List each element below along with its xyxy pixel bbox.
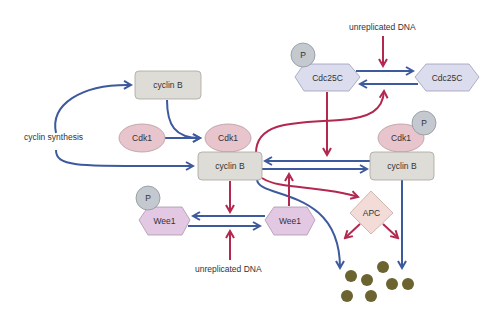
cyclin-b-phospho-label: cyclin B: [370, 152, 434, 180]
cyclin-synthesis-label: cyclin synthesis: [24, 132, 83, 142]
p-wee1-label: P: [136, 186, 160, 210]
cdc25c-phospho-label: Cdc25C: [295, 64, 360, 91]
unreplicated-dna-bottom-label: unreplicated DNA: [195, 264, 262, 274]
cdc25c-label: Cdc25C: [415, 64, 479, 91]
cyclin-b-free-label: cyclin B: [135, 71, 201, 99]
arrow-synthesis-to-complex: [56, 150, 193, 166]
wee1-phospho-label: Wee1: [139, 207, 190, 235]
degraded-cyclin-particles: [341, 261, 414, 302]
cdk1-free-label: Cdk1: [119, 124, 165, 152]
cdk1-bound-label: Cdk1: [205, 124, 251, 152]
apc-label: APC: [350, 199, 393, 227]
wee1-label: Wee1: [265, 207, 315, 235]
p-cdc25c-label: P: [291, 43, 315, 67]
arrow-dna-to-cdc25c-bottom: [256, 91, 384, 153]
arrow-complex-to-apc: [262, 178, 358, 197]
arrow-cyclin-to-cdk1: [167, 100, 200, 138]
cyclin-b-complex-label: cyclin B: [198, 152, 262, 180]
unreplicated-dna-top-label: unreplicated DNA: [349, 22, 416, 32]
p-cdk1-label: P: [412, 111, 436, 135]
